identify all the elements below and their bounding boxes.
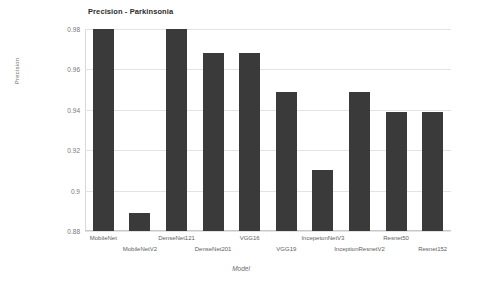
x-axis-tick-label: IncepetonNetV3: [301, 235, 344, 241]
x-axis-tick-label: Resnet50: [383, 235, 409, 241]
bar: [166, 29, 187, 231]
bar: [129, 213, 150, 231]
y-axis-tick-labels: 0.980.960.940.920.90.88: [38, 29, 80, 231]
x-axis-title: Model: [0, 265, 482, 272]
bar: [349, 92, 370, 231]
x-axis-tick-label: MobileNetV2: [123, 246, 157, 252]
x-axis-tick-label: InceptionResnetV2: [334, 246, 385, 252]
x-axis-tick-label: Resnet152: [418, 246, 447, 252]
y-axis-tick-label: 0.9: [40, 187, 80, 194]
bar: [203, 53, 224, 231]
y-axis-tick-label: 0.96: [40, 66, 80, 73]
y-axis-tick-label: 0.98: [40, 26, 80, 33]
x-axis-tick-labels: MobileNetMobileNetV2DenseNet121DenseNet2…: [85, 231, 451, 261]
y-axis-tick-label: 0.92: [40, 147, 80, 154]
bar: [276, 92, 297, 231]
precision-bar-chart: Precision - Parkinsonia Precision 0.980.…: [0, 0, 482, 283]
y-axis-tick-label: 0.88: [40, 228, 80, 235]
chart-title: Precision - Parkinsonia: [88, 7, 173, 16]
y-axis-tick-label: 0.94: [40, 106, 80, 113]
bar: [312, 170, 333, 231]
x-axis-tick-label: VGG19: [276, 246, 296, 252]
y-axis-title: Precision: [14, 36, 20, 106]
x-axis-tick-label: DenseNet121: [158, 235, 195, 241]
bar: [422, 112, 443, 231]
bar: [239, 53, 260, 231]
plot-area: [85, 29, 451, 231]
x-axis-tick-label: VGG16: [240, 235, 260, 241]
bar: [386, 112, 407, 231]
bar-series: [85, 29, 451, 231]
bar: [93, 29, 114, 231]
x-axis-tick-label: MobileNet: [90, 235, 117, 241]
x-axis-tick-label: DenseNet201: [195, 246, 232, 252]
